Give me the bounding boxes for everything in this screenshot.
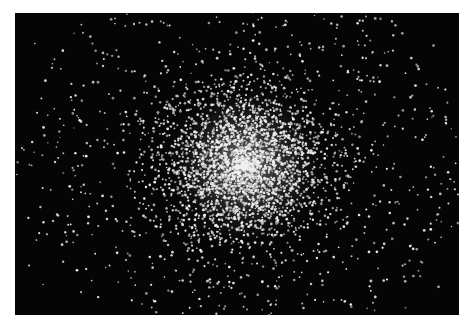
star-field-canvas: [15, 13, 459, 315]
star-cluster-photo: globular star cluster: [15, 13, 459, 315]
